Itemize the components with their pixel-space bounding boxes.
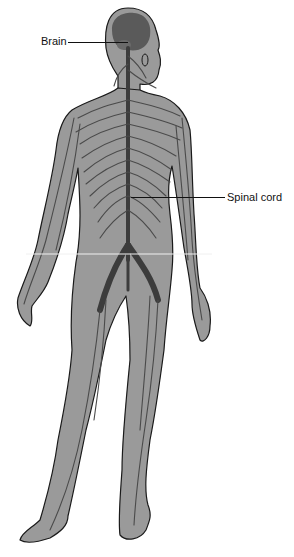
- nervous-system-diagram: Brain Spinal cord: [0, 0, 294, 557]
- brain-shape: [112, 13, 150, 51]
- label-brain: Brain: [41, 35, 67, 47]
- leader-line-spinal-cord: [131, 197, 225, 198]
- leader-line-brain: [68, 42, 128, 43]
- body-figure: [0, 0, 294, 557]
- label-spinal-cord: Spinal cord: [227, 191, 282, 203]
